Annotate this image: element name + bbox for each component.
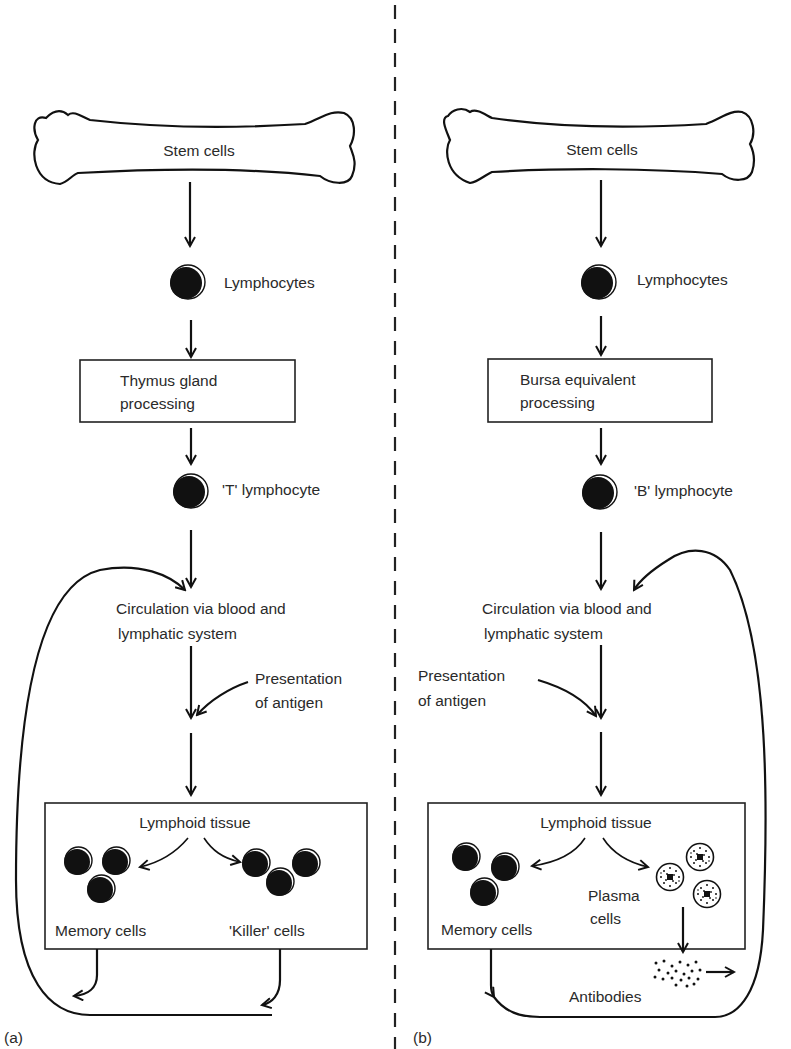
- t-lymphocyte-label: 'T' lymphocyte: [222, 481, 320, 498]
- lymphocyte-icon: [170, 265, 205, 299]
- plasma-cell-icon: [694, 881, 721, 908]
- circulation-line2: lymphatic system: [484, 625, 603, 642]
- memory-cell-icon: [491, 853, 519, 881]
- antigen-line1: Presentation: [255, 670, 342, 687]
- lymphocytes-label: Lymphocytes: [637, 271, 728, 288]
- plasma-cell-icon: [657, 864, 684, 891]
- antigen-line2: of antigen: [255, 694, 323, 711]
- t-lymphocyte-icon: [173, 474, 208, 508]
- stem-cells-label: Stem cells: [566, 141, 638, 158]
- killer-cell-icon: [266, 868, 294, 896]
- lymphoid-tissue-label: Lymphoid tissue: [139, 814, 250, 831]
- panel-a: Stem cells Lymphocytes Thymus gland proc…: [4, 111, 367, 1046]
- killer-cell-icon: [292, 849, 320, 877]
- plasma-line2: cells: [590, 910, 621, 927]
- panel-b-label: (b): [413, 1029, 432, 1046]
- panel-b: Stem cells Lymphocytes Bursa equivalent …: [413, 109, 766, 1046]
- lymphocyte-icon: [581, 265, 616, 299]
- memory-cell-icon: [64, 847, 92, 875]
- processing-line2: processing: [120, 395, 195, 412]
- memory-cell-icon: [470, 878, 498, 906]
- b-lymphocyte-label: 'B' lymphocyte: [634, 482, 733, 499]
- memory-cell-icon: [452, 843, 480, 871]
- lymphocytes-label: Lymphocytes: [224, 274, 315, 291]
- killer-cells-label: 'Killer' cells: [229, 922, 305, 939]
- memory-cells-label: Memory cells: [441, 921, 533, 938]
- processing-line2: processing: [520, 394, 595, 411]
- processing-line1: Bursa equivalent: [520, 371, 636, 388]
- killer-cell-icon: [242, 849, 270, 877]
- antigen-line2: of antigen: [418, 692, 486, 709]
- plasma-line1: Plasma: [588, 887, 640, 904]
- circulation-line1: Circulation via blood and: [116, 600, 286, 617]
- stem-cells-label: Stem cells: [163, 142, 235, 159]
- memory-cells-label: Memory cells: [55, 922, 147, 939]
- bursa-processing-box: [488, 359, 712, 422]
- antibodies-label: Antibodies: [569, 988, 642, 1005]
- lymphoid-tissue-label: Lymphoid tissue: [540, 814, 651, 831]
- circulation-line1: Circulation via blood and: [482, 600, 652, 617]
- thymus-processing-box: [80, 360, 295, 422]
- antigen-line1: Presentation: [418, 667, 505, 684]
- circulation-line2: lymphatic system: [118, 625, 237, 642]
- panel-a-label: (a): [4, 1029, 23, 1046]
- lymphocyte-diagram: Stem cells Lymphocytes Thymus gland proc…: [0, 0, 791, 1049]
- antibodies-icon: [654, 960, 702, 988]
- processing-line1: Thymus gland: [120, 372, 217, 389]
- memory-cell-icon: [87, 875, 115, 903]
- plasma-cell-icon: [687, 844, 714, 871]
- b-lymphocyte-icon: [582, 475, 617, 509]
- memory-cell-icon: [102, 847, 130, 875]
